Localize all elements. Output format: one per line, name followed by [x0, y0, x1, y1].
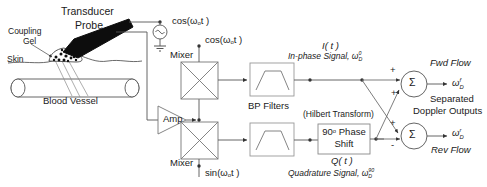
mixer-bottom-label: Mixer	[170, 158, 193, 168]
mixer-bottom-block	[181, 122, 218, 159]
rev-output-symbol: ωrDr	[452, 128, 461, 138]
phase-shift-line2: Shift	[318, 139, 370, 149]
wire-mixer-to-filters	[218, 80, 247, 140]
quadrature-signal-label: Quadrature Signal, ω90D90	[288, 169, 374, 178]
junction-dot-cos-top	[197, 44, 200, 47]
fwd-omega: ω	[452, 77, 459, 88]
bottom-summer-minus: -	[391, 140, 394, 150]
rev-flow-label: Rev Flow	[431, 145, 471, 155]
sin-mixer-label: sin(ωot )	[205, 168, 239, 179]
fwd-omega-indices: fDf	[459, 78, 461, 88]
junction-dot-amp-split	[197, 118, 200, 121]
sin-mixer-base: sin(ω	[205, 167, 228, 178]
fwd-output-symbol: ωfDf	[452, 78, 461, 88]
cos-mixer-label: cos(ωot )	[205, 35, 242, 46]
inphase-signal-label: In-phase Signal, ω0D0	[288, 52, 361, 61]
probe-label: Probe	[75, 20, 103, 31]
inphase-omega-indices: 0D0	[358, 52, 361, 61]
phase-shift-number: 90	[322, 126, 333, 137]
fwd-sup: f	[459, 77, 461, 83]
junction-dot-Q-tap	[308, 138, 311, 141]
rev-omega-indices: rDr	[459, 128, 461, 138]
transducer-label: Transducer	[61, 6, 114, 17]
cos-source-tail: t )	[201, 15, 209, 26]
amp-label: Amp	[163, 114, 183, 124]
inphase-sup: 0	[358, 51, 361, 57]
mixer-top-block	[181, 62, 218, 99]
diagram-canvas	[0, 0, 487, 187]
phase-shift-word: Phase	[336, 126, 366, 137]
quadrature-sup: 90	[368, 168, 374, 174]
quadrature-symbol-label: Q( t )	[331, 156, 353, 166]
cos-source-label: cos(ωot )	[172, 16, 209, 27]
doppler-block-diagram: Transducer Probe Coupling Gel Skin Blood…	[0, 0, 487, 187]
separated-outputs-line1: Separated	[430, 94, 474, 104]
sin-mixer-tail: t )	[231, 167, 239, 178]
junction-dot-I-tap	[308, 78, 311, 81]
local-oscillator-source	[153, 22, 167, 46]
fwd-flow-label: Fwd Flow	[430, 58, 471, 68]
fwd-sub: D	[459, 84, 463, 90]
inphase-symbol-label: I( t )	[322, 41, 339, 51]
phase-shift-line1: 90o Phase	[318, 127, 370, 137]
skin-label: Skin	[7, 55, 24, 64]
blood-vessel-label: Blood Vessel	[43, 96, 98, 106]
bottom-summer-plus: +	[390, 118, 396, 128]
junction-dot-sin-bottom	[197, 164, 200, 167]
separated-outputs-line2: Doppler Outputs	[413, 106, 482, 116]
coupling-gel-label-line1: Coupling	[8, 27, 42, 36]
mixer-top-label: Mixer	[170, 50, 193, 60]
cos-mixer-base: cos(ω	[205, 34, 230, 45]
bandpass-filter-bottom	[250, 123, 294, 156]
coupling-gel-label-line2: Gel	[23, 37, 36, 46]
quadrature-sub: D	[368, 174, 372, 180]
rev-sub: D	[459, 134, 463, 140]
quadrature-omega-indices: 90D90	[368, 169, 374, 178]
hilbert-transform-label: (Hilbert Transform)	[303, 110, 374, 119]
rev-omega: ω	[452, 127, 459, 138]
summer-bottom-sigma: Σ	[409, 129, 416, 140]
wire-probe-to-network	[116, 22, 160, 120]
cos-mixer-tail: t )	[234, 34, 242, 45]
top-summer-plus-a: +	[390, 65, 396, 75]
cos-source-base: cos(ω	[172, 15, 197, 26]
inphase-sub: D	[358, 57, 362, 63]
top-summer-plus-b: +	[391, 88, 397, 98]
rev-sup: r	[459, 127, 461, 133]
bp-filters-label: BP Filters	[248, 101, 289, 111]
inphase-signal-text: In-phase Signal, ω	[288, 51, 358, 61]
bandpass-filter-top	[250, 63, 294, 96]
quadrature-signal-text: Quadrature Signal, ω	[288, 168, 368, 178]
summer-top-sigma: Σ	[409, 77, 416, 88]
ground-symbol	[154, 46, 166, 51]
